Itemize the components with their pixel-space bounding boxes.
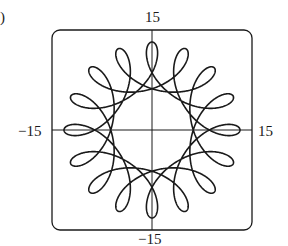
- plot-area: [0, 0, 288, 246]
